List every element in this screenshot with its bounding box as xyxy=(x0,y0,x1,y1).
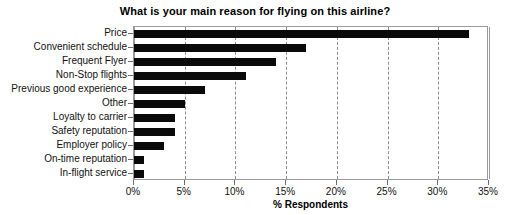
chart-title: What is your main reason for flying on t… xyxy=(0,5,510,17)
y-axis-label: Price xyxy=(104,26,127,40)
y-axis-label: Frequent Flyer xyxy=(62,54,127,68)
y-axis-label: Employer policy xyxy=(56,138,127,152)
x-axis-tick-label: 15% xyxy=(275,186,295,197)
x-axis-tick-label: 5% xyxy=(176,186,190,197)
y-axis-label: In-flight service xyxy=(60,166,127,180)
bar-row xyxy=(134,97,489,111)
y-axis-labels: PriceConvenient scheduleFrequent FlyerNo… xyxy=(0,26,131,180)
bar-row xyxy=(134,125,489,139)
bar xyxy=(134,128,175,136)
bar-row xyxy=(134,111,489,125)
x-axis-tick-label: 20% xyxy=(326,186,346,197)
bar xyxy=(134,170,144,178)
bar xyxy=(134,156,144,164)
bar-row xyxy=(134,83,489,97)
x-axis-tick-label: 30% xyxy=(427,186,447,197)
x-axis-tick xyxy=(488,180,489,185)
x-axis-tick xyxy=(184,180,185,185)
x-axis-title: % Respondents xyxy=(133,199,488,210)
x-axis-tick-label: 0% xyxy=(126,186,140,197)
bar-row xyxy=(134,167,489,181)
bar xyxy=(134,44,306,52)
x-axis-tick xyxy=(437,180,438,185)
bars-layer xyxy=(134,27,487,179)
bar-row xyxy=(134,139,489,153)
x-axis-tick xyxy=(285,180,286,185)
gridline-35% xyxy=(489,27,490,179)
bar-row xyxy=(134,27,489,41)
bar-row xyxy=(134,153,489,167)
y-axis-label: Non-Stop flights xyxy=(56,68,127,82)
plot-area xyxy=(133,26,488,180)
y-axis-label: Convenient schedule xyxy=(34,40,127,54)
bar xyxy=(134,142,164,150)
x-axis-tick xyxy=(336,180,337,185)
y-axis-label: Loyalty to carrier xyxy=(53,110,127,124)
bar xyxy=(134,86,205,94)
bar xyxy=(134,100,185,108)
x-axis-tick xyxy=(234,180,235,185)
y-axis-label: Safety reputation xyxy=(51,124,127,138)
x-axis-tick-label: 10% xyxy=(224,186,244,197)
x-axis-tick-label: 25% xyxy=(377,186,397,197)
y-axis-label: Other xyxy=(102,96,127,110)
x-axis-tick xyxy=(387,180,388,185)
bar-row xyxy=(134,69,489,83)
bar xyxy=(134,114,175,122)
bar xyxy=(134,30,469,38)
y-axis-label: On-time reputation xyxy=(44,152,127,166)
x-axis-tick-label: 35% xyxy=(478,186,498,197)
y-axis-label: Previous good experience xyxy=(11,82,127,96)
x-axis-tick-labels: 0%5%10%15%20%25%30%35% xyxy=(0,186,510,200)
bar-row xyxy=(134,41,489,55)
bar xyxy=(134,58,276,66)
bar xyxy=(134,72,246,80)
x-axis-tick xyxy=(133,180,134,185)
bar-row xyxy=(134,55,489,69)
